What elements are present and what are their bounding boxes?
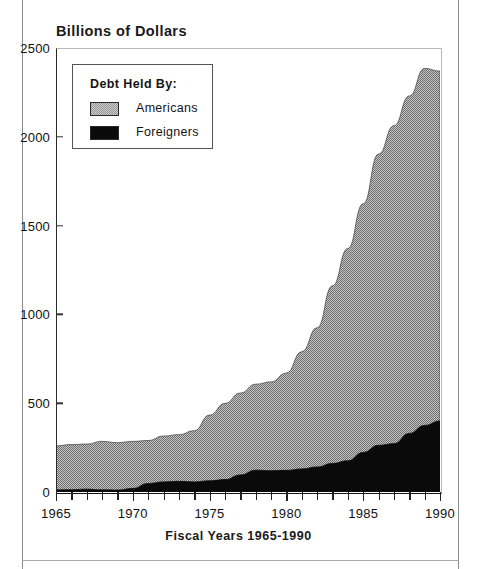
x-axis-minor-tick <box>117 492 118 500</box>
y-axis-tick-mark <box>56 314 63 315</box>
y-axis-tick-mark <box>56 136 63 137</box>
x-axis-minor-tick <box>240 492 241 500</box>
x-axis-tick-label: 1965 <box>41 506 71 521</box>
x-axis-tick-label: 1980 <box>271 506 301 521</box>
x-axis-major-tick <box>286 492 287 501</box>
x-axis-minor-tick <box>148 492 149 500</box>
legend-swatch-foreigners <box>90 126 119 140</box>
x-axis-major-tick <box>56 492 57 501</box>
x-axis-major-tick <box>363 492 364 501</box>
x-axis-minor-tick <box>179 492 180 500</box>
x-axis-major-tick <box>133 492 134 501</box>
x-axis-minor-tick <box>409 492 410 500</box>
x-axis-minor-tick <box>317 492 318 500</box>
legend-label-foreigners: Foreigners <box>136 125 199 139</box>
x-axis-minor-tick <box>164 492 165 500</box>
y-axis-tick-label: 1000 <box>4 307 50 322</box>
y-axis-tick-label: 500 <box>4 396 50 411</box>
x-axis-minor-tick <box>71 492 72 500</box>
y-axis-tick-label: 2500 <box>4 41 50 56</box>
x-axis-minor-tick <box>102 492 103 500</box>
x-axis-minor-tick <box>256 492 257 500</box>
stacked-area-chart: Billions of Dollars 05001000150020002500… <box>0 0 477 569</box>
x-axis-minor-tick <box>302 492 303 500</box>
y-axis-tick-label: 0 <box>4 485 50 500</box>
x-axis-minor-tick <box>394 492 395 500</box>
legend-swatch-americans <box>90 102 119 116</box>
x-axis-tick-label: 1975 <box>195 506 225 521</box>
x-axis-minor-tick <box>194 492 195 500</box>
x-axis-minor-tick <box>332 492 333 500</box>
y-axis-tick-label: 1500 <box>4 218 50 233</box>
x-axis-tick-label: 1985 <box>348 506 378 521</box>
legend-title: Debt Held By: <box>90 77 177 91</box>
chart-legend: Debt Held By: Americans Foreigners <box>72 64 213 149</box>
x-axis-major-tick <box>210 492 211 501</box>
x-axis-minor-tick <box>379 492 380 500</box>
x-axis-minor-tick <box>348 492 349 500</box>
x-axis-title: Fiscal Years 1965-1990 <box>0 529 477 543</box>
chart-title: Billions of Dollars <box>56 23 187 39</box>
y-axis-tick-mark <box>56 225 63 226</box>
y-axis: 05001000150020002500 <box>0 0 50 569</box>
x-axis-major-tick <box>440 492 441 501</box>
y-axis-tick-label: 2000 <box>4 129 50 144</box>
x-axis-minor-tick <box>271 492 272 500</box>
x-axis-tick-label: 1990 <box>425 506 455 521</box>
x-axis-minor-tick <box>225 492 226 500</box>
y-axis-tick-mark <box>56 402 63 403</box>
x-axis-minor-tick <box>425 492 426 500</box>
x-axis-minor-tick <box>87 492 88 500</box>
x-axis-tick-label: 1970 <box>118 506 148 521</box>
legend-label-americans: Americans <box>136 101 198 115</box>
